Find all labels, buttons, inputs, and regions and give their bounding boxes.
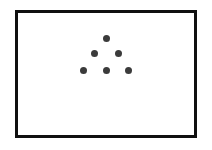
frame-interior (18, 13, 194, 135)
dot-marker (103, 35, 110, 42)
dot-marker (125, 67, 132, 74)
dot-marker (115, 50, 122, 57)
dot-marker (80, 67, 87, 74)
image-canvas (0, 0, 212, 150)
rectangle-frame (15, 10, 197, 138)
dot-marker (91, 50, 98, 57)
dot-marker (103, 67, 110, 74)
